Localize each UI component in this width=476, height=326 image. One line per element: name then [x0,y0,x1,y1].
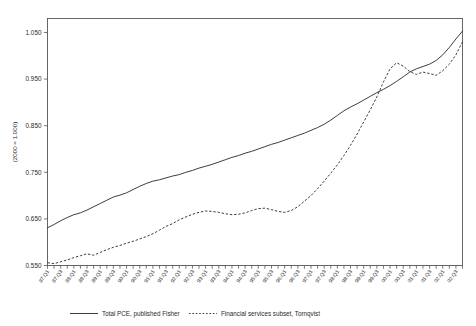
plot-frame [48,19,463,266]
x-tick-label: 87:Q1 [37,269,50,284]
x-tick-label: 89:Q1 [90,269,103,284]
x-tick-label: 92:Q3 [182,269,195,284]
series-line-1 [48,31,463,228]
x-tick-label: 01:Q1 [406,269,419,284]
y-tick-label: 0.750 [26,169,42,176]
y-axis-title-label: (2000 = 1.000) [11,122,18,162]
x-axis-ticks: 87:Q187:Q388:Q188:Q389:Q189:Q390:Q190:Q3… [37,266,462,284]
chart-legend: Total PCE, published FisherFinancial ser… [70,310,320,318]
line-chart: 0.5500.6500.7500.8500.9501.050 87:Q187:Q… [0,0,476,326]
y-tick-label: 1.050 [26,29,42,36]
x-tick-label: 93:Q1 [195,269,208,284]
x-tick-label: 96:Q3 [288,269,301,284]
x-tick-label: 97:Q1 [301,269,314,284]
y-tick-label: 0.550 [26,262,42,269]
y-axis-ticks: 0.5500.6500.7500.8500.9501.050 [26,29,48,269]
x-tick-label: 00:Q1 [380,269,393,284]
series-line-2 [48,42,463,264]
x-tick-label: 91:Q1 [143,269,156,284]
series-group [48,31,463,264]
x-tick-label: 99:Q1 [353,269,366,284]
x-tick-label: 88:Q1 [64,269,77,284]
x-tick-label: 02:Q3 [446,269,459,284]
x-tick-label: 91:Q3 [156,269,169,284]
x-tick-label: 89:Q3 [103,269,116,284]
plot-border [48,19,463,266]
x-tick-label: 96:Q1 [274,269,287,284]
x-tick-label: 94:Q3 [235,269,248,284]
x-tick-label: 95:Q1 [248,269,261,284]
x-tick-label: 01:Q3 [419,269,432,284]
x-tick-label: 95:Q3 [261,269,274,284]
legend-label-2: Financial services subset, Tornqvist [221,310,320,318]
legend-label-1: Total PCE, published Fisher [102,310,180,318]
chart-container: 0.5500.6500.7500.8500.9501.050 87:Q187:Q… [0,0,476,326]
x-tick-label: 00:Q3 [393,269,406,284]
x-tick-label: 98:Q3 [340,269,353,284]
y-tick-label: 0.650 [26,215,42,222]
y-tick-label: 0.950 [26,75,42,82]
x-tick-label: 90:Q1 [116,269,129,284]
x-tick-label: 92:Q1 [169,269,182,284]
x-tick-label: 87:Q3 [50,269,63,284]
x-tick-label: 97:Q3 [314,269,327,284]
y-tick-label: 0.850 [26,122,42,129]
x-tick-label: 93:Q3 [209,269,222,284]
x-tick-label: 98:Q1 [327,269,340,284]
x-tick-label: 02:Q1 [433,269,446,284]
x-tick-label: 90:Q3 [130,269,143,284]
x-tick-label: 94:Q1 [222,269,235,284]
x-tick-label: 88:Q3 [77,269,90,284]
y-axis-title: (2000 = 1.000) [11,122,18,162]
x-tick-label: 99:Q3 [367,269,380,284]
